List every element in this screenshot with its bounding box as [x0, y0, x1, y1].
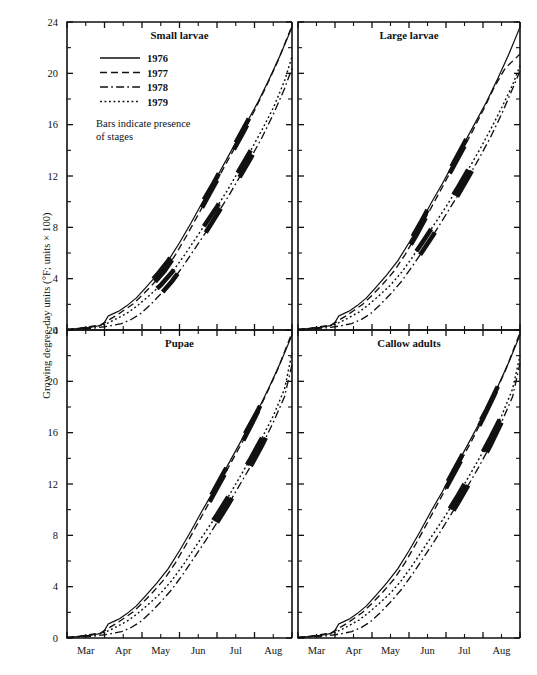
panel-large-larvae: Large larvae [298, 22, 520, 330]
presence-bar-1977-0 [210, 475, 225, 502]
series-line-1977 [67, 333, 292, 638]
panel-frame [298, 22, 520, 330]
y-axis-label: Growing degree-day units (°F; units × 10… [41, 176, 52, 436]
multi-panel-chart: 04812162024Small larvaeLarge larvae04812… [0, 0, 537, 675]
panel-title: Callow adults [377, 337, 440, 349]
series-line-1976 [298, 335, 520, 637]
panel-pupae: 04812162024MarAprMayJunJulAugPupae [48, 325, 293, 656]
legend-label-1979: 1979 [147, 97, 168, 108]
series-line-1978 [298, 71, 520, 330]
series-line-1979 [67, 57, 292, 330]
y-tick-label: 24 [48, 17, 59, 28]
series-line-1977 [298, 54, 520, 329]
legend-note-line1: Bars indicate presence [96, 118, 191, 129]
x-tick-label: Apr [345, 645, 362, 656]
x-tick-label: Jun [420, 645, 435, 656]
y-tick-label: 4 [53, 273, 59, 284]
panel-title: Large larvae [379, 29, 438, 41]
y-tick-label: 8 [53, 222, 58, 233]
presence-bar-1977-2 [234, 125, 247, 149]
panel-small-larvae: 04812162024Small larvae [48, 17, 293, 336]
series-line-1976 [67, 335, 292, 637]
panel-frame [67, 330, 292, 638]
y-tick-label: 8 [53, 530, 58, 541]
x-tick-label: Aug [264, 645, 283, 656]
panel-callow-adults: MarAprMayJunJulAugCallow adults [298, 330, 520, 656]
presence-bar-1977-1 [479, 391, 496, 425]
panel-frame [298, 330, 520, 638]
presence-bar-1977-1 [450, 146, 465, 173]
series-line-1977 [298, 333, 520, 638]
panel-title: Small larvae [151, 29, 209, 41]
panel-title: Pupae [165, 337, 194, 349]
legend-note-line2: of stages [96, 131, 133, 142]
y-tick-label: 4 [53, 581, 59, 592]
x-tick-label: May [381, 645, 401, 656]
y-tick-label: 0 [53, 633, 58, 644]
x-tick-label: Jul [230, 645, 242, 656]
legend-label-1977: 1977 [147, 68, 168, 79]
panel-frame [67, 22, 292, 330]
presence-bar-1977-1 [243, 411, 258, 441]
figure-container: Growing degree-day units (°F; units × 10… [0, 0, 537, 675]
presence-bar-1977-0 [446, 461, 461, 488]
legend: 1976197719781979Bars indicate presenceof… [96, 53, 191, 142]
y-tick-label: 16 [48, 119, 59, 130]
y-tick-label: 20 [48, 68, 59, 79]
presence-bar-1977-1 [202, 180, 217, 207]
series-line-1977 [67, 26, 292, 330]
series-line-1979 [298, 66, 520, 330]
x-tick-label: Jun [191, 645, 206, 656]
y-tick-label: 12 [48, 479, 59, 490]
x-tick-label: Apr [115, 645, 132, 656]
legend-label-1978: 1978 [147, 82, 168, 93]
x-tick-label: Jul [458, 645, 470, 656]
series-line-1979 [298, 356, 520, 638]
series-line-1979 [67, 353, 292, 637]
series-line-1978 [67, 68, 292, 329]
x-tick-label: May [151, 645, 171, 656]
x-tick-label: Aug [492, 645, 511, 656]
legend-label-1976: 1976 [147, 53, 168, 64]
x-tick-label: Mar [77, 645, 95, 656]
series-line-1976 [298, 27, 520, 329]
x-tick-label: Mar [308, 645, 326, 656]
